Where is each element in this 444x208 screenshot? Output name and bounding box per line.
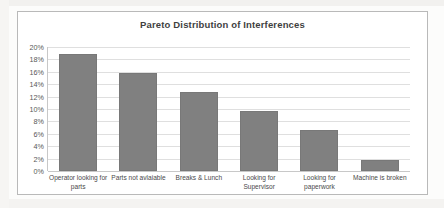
scan-edge-left (0, 0, 9, 208)
x-axis-tick-label: Machine is broken (350, 174, 410, 191)
y-axis-tick-label: 12% (30, 92, 44, 101)
y-axis-tick-label: 4% (34, 142, 44, 151)
gridline (48, 171, 410, 172)
y-axis-tick-label: 8% (34, 117, 44, 126)
scan-edge-top (0, 0, 444, 6)
x-axis-tick-label: Looking for Supervisor (229, 174, 289, 191)
y-axis-tick-label: 14% (30, 80, 44, 89)
y-axis-tick-label: 6% (34, 129, 44, 138)
chart-title: Pareto Distribution of Interferences (18, 19, 427, 30)
bar-slot (169, 47, 229, 171)
x-axis-tick-label: Breaks & Lunch (169, 174, 229, 191)
x-axis-tick-label: Looking for paperwork (289, 174, 349, 191)
x-axis-tick-labels: Operator looking for partsParts not avla… (48, 174, 410, 191)
bar (119, 73, 157, 171)
bar (300, 130, 338, 171)
bar (59, 54, 97, 171)
y-axis-tick-label: 16% (30, 67, 44, 76)
x-axis-tick-label: Operator looking for parts (48, 174, 108, 191)
chart-frame: Pareto Distribution of Interferences 20%… (17, 11, 428, 195)
bar-slot (289, 47, 349, 171)
x-axis-tick-label: Parts not avlaiable (108, 174, 168, 191)
bar-slot (350, 47, 410, 171)
bar-slot (229, 47, 289, 171)
bar (361, 160, 399, 171)
plot-area: 20%18%16%14%12%10%8%6%4%2%0% (48, 47, 410, 171)
bar (240, 111, 278, 171)
bar-slot (48, 47, 108, 171)
y-axis-tick-label: 20% (30, 43, 44, 52)
bar (180, 92, 218, 171)
y-axis-tick-label: 10% (30, 105, 44, 114)
scanned-page: Pareto Distribution of Interferences 20%… (0, 0, 444, 208)
bar-slot (108, 47, 168, 171)
y-axis-tick-label: 2% (34, 154, 44, 163)
scan-edge-bottom (0, 199, 444, 208)
y-axis-tick-label: 18% (30, 55, 44, 64)
bar-series (48, 47, 410, 171)
y-axis-tick-label: 0% (34, 167, 44, 176)
